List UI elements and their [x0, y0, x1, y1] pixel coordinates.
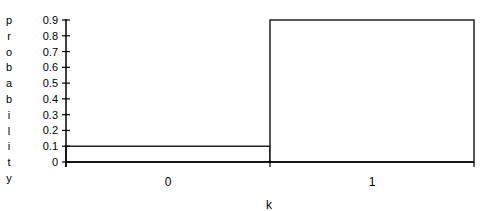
y-axis-label-letter: l: [3, 124, 15, 140]
y-axis-label-letter: b: [3, 92, 15, 108]
y-tick-label: 0.5: [43, 77, 58, 89]
x-tick-label: 1: [369, 175, 376, 189]
y-tick-label: 0.9: [43, 14, 58, 26]
y-axis-label-letter: a: [3, 76, 15, 92]
x-tick-label: 0: [165, 175, 172, 189]
bar-1: [270, 20, 474, 162]
y-tick-label: 0: [52, 156, 58, 168]
bar-0: [66, 146, 270, 162]
y-tick-label: 0.2: [43, 124, 58, 136]
y-axis-label-letter: o: [3, 45, 15, 61]
x-axis-label: k: [266, 198, 272, 211]
y-axis-label-letter: p: [3, 13, 15, 29]
y-tick-label: 0.4: [43, 93, 58, 105]
y-axis-label-letter: t: [3, 155, 15, 171]
y-axis-label-letter: i: [3, 139, 15, 155]
y-tick-label: 0.7: [43, 46, 58, 58]
y-tick-label: 0.1: [43, 140, 58, 152]
y-tick-label: 0.3: [43, 109, 58, 121]
y-axis-label-letter: i: [3, 108, 15, 124]
y-tick-label: 0.6: [43, 61, 58, 73]
y-axis-label-letter: b: [3, 60, 15, 76]
plot-area: 0100.10.20.30.40.50.60.70.80.9: [0, 0, 497, 211]
y-axis-label-letter: y: [3, 171, 15, 187]
y-axis-label-letter: r: [3, 29, 15, 45]
y-tick-label: 0.8: [43, 30, 58, 42]
